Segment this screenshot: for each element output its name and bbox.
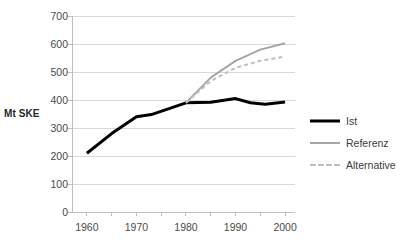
x-axis-tick-marks [68,16,285,216]
gridlines [72,16,295,212]
legend-swatch-ist [310,115,340,127]
legend-label: Alternative [346,159,396,171]
legend-label: Ist [346,115,357,127]
legend-item-alternative[interactable]: Alternative [310,154,406,176]
series-line-referenz [186,43,285,103]
series-line-ist [87,99,285,154]
legend-label: Referenz [346,137,389,149]
legend-swatch-referenz [310,137,340,149]
chart-legend: IstReferenzAlternative [310,110,406,176]
line-chart: Mt SKE 0100200300400500600700 1960197019… [0,0,406,251]
legend-swatch-alternative [310,159,340,171]
series-line-alternative [186,57,285,103]
legend-item-ist[interactable]: Ist [310,110,406,132]
data-series-group [87,43,285,153]
axis-lines [72,16,295,212]
legend-item-referenz[interactable]: Referenz [310,132,406,154]
